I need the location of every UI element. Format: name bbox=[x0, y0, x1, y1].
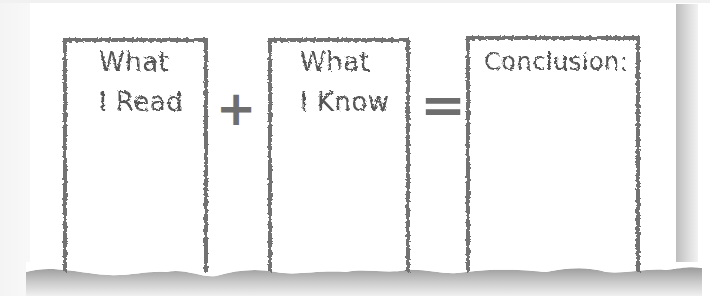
what-i-read-label: What I Read bbox=[99, 42, 183, 122]
plus-sign: + bbox=[216, 84, 256, 132]
what-i-know-label: What I Know bbox=[300, 42, 390, 122]
conclusion-box: Conclusion: bbox=[466, 36, 640, 272]
conclusion-line1: Conclusion: bbox=[484, 42, 628, 82]
background-strip-top bbox=[0, 0, 710, 3]
background-strip-left bbox=[0, 0, 30, 296]
what-i-know-box: What I Know bbox=[268, 38, 410, 272]
what-i-read-box: What I Read bbox=[63, 38, 208, 272]
what-i-read-line2: I Read bbox=[99, 82, 183, 122]
what-i-read-line1: What bbox=[99, 42, 183, 82]
conclusion-label: Conclusion: bbox=[484, 42, 628, 82]
what-i-know-line2: I Know bbox=[300, 82, 390, 122]
equals-sign: = bbox=[420, 80, 466, 130]
what-i-know-line1: What bbox=[300, 42, 390, 82]
paper-shadow-right bbox=[676, 4, 698, 290]
